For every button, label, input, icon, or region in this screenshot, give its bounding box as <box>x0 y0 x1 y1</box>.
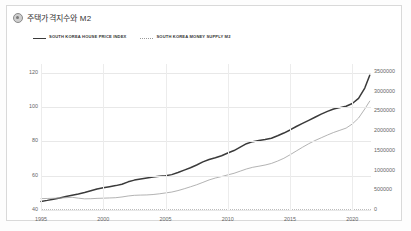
chart-screenshot: 주택가격지수와 M2 SOUTH KOREA HOUSE PRICE INDEX… <box>0 0 411 231</box>
gear-icon <box>13 13 23 23</box>
gridline-horizontal <box>41 141 371 142</box>
x-axis-tick-label: 2010 <box>222 216 234 222</box>
y-axis-right-tick-label: 500000 <box>374 187 392 192</box>
y-axis-left-tick-label: 80 <box>32 138 38 143</box>
gridline-vertical <box>228 64 229 210</box>
gridline-horizontal <box>41 107 371 108</box>
y-axis-right-tick-label: 1000000 <box>374 168 395 173</box>
legend-swatch-dotted-icon <box>140 38 153 39</box>
x-axis-tick-label: 2020 <box>346 216 358 222</box>
legend-item-house-price-index[interactable]: SOUTH KOREA HOUSE PRICE INDEX <box>33 34 126 40</box>
x-axis-tick-label: 2000 <box>97 216 109 222</box>
gridline-vertical <box>103 64 104 210</box>
y-axis-right-tick-label: 1500000 <box>374 148 395 153</box>
y-axis-left-tick-label: 60 <box>32 173 38 178</box>
gridline-vertical <box>41 64 42 210</box>
gridline-horizontal <box>41 210 371 211</box>
legend-label: SOUTH KOREA HOUSE PRICE INDEX <box>49 34 126 40</box>
y-axis-left-tick-label: 120 <box>29 70 38 75</box>
legend-item-money-supply-m2[interactable]: SOUTH KOREA MONEY SUPPLY M2 <box>140 34 230 40</box>
chart-lines <box>41 64 371 210</box>
y-axis-left-tick-label: 100 <box>29 104 38 109</box>
x-axis-tick-label: 1995 <box>35 216 47 222</box>
gridline-horizontal <box>41 176 371 177</box>
chart-title-row: 주택가격지수와 M2 <box>13 12 91 23</box>
y-axis-right-tick-label: 2000000 <box>374 128 395 133</box>
gridline-vertical <box>352 64 353 210</box>
gridline-vertical <box>290 64 291 210</box>
gridline-vertical <box>166 64 167 210</box>
gridline-horizontal <box>41 73 371 74</box>
y-axis-right-tick-label: 2500000 <box>374 108 395 113</box>
plot-area: 4060801001200500000100000015000002000000… <box>41 64 371 210</box>
legend-swatch-line-icon <box>33 38 46 39</box>
x-axis-tick-label: 2015 <box>284 216 296 222</box>
series-line-money-supply-m2 <box>41 101 370 199</box>
y-axis-right-tick-label: 3000000 <box>374 89 395 94</box>
y-axis-left-tick-label: 40 <box>32 207 38 212</box>
x-axis-tick-label: 2005 <box>160 216 172 222</box>
legend-label: SOUTH KOREA MONEY SUPPLY M2 <box>156 34 230 40</box>
y-axis-right-tick-label: 3500000 <box>374 69 395 74</box>
y-axis-right-tick-label: 0 <box>374 207 377 212</box>
chart-card: 주택가격지수와 M2 SOUTH KOREA HOUSE PRICE INDEX… <box>6 5 402 221</box>
chart-legend: SOUTH KOREA HOUSE PRICE INDEX SOUTH KORE… <box>33 34 231 40</box>
page-title: 주택가격지수와 M2 <box>27 12 91 23</box>
